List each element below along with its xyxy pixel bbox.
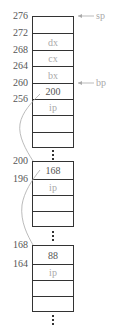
sp-label: sp [96, 10, 105, 21]
frame-link-curve [22, 170, 40, 245]
bp-label: bp [96, 77, 106, 88]
frame-link-curve [20, 94, 40, 161]
pointer-arrows [0, 0, 117, 335]
